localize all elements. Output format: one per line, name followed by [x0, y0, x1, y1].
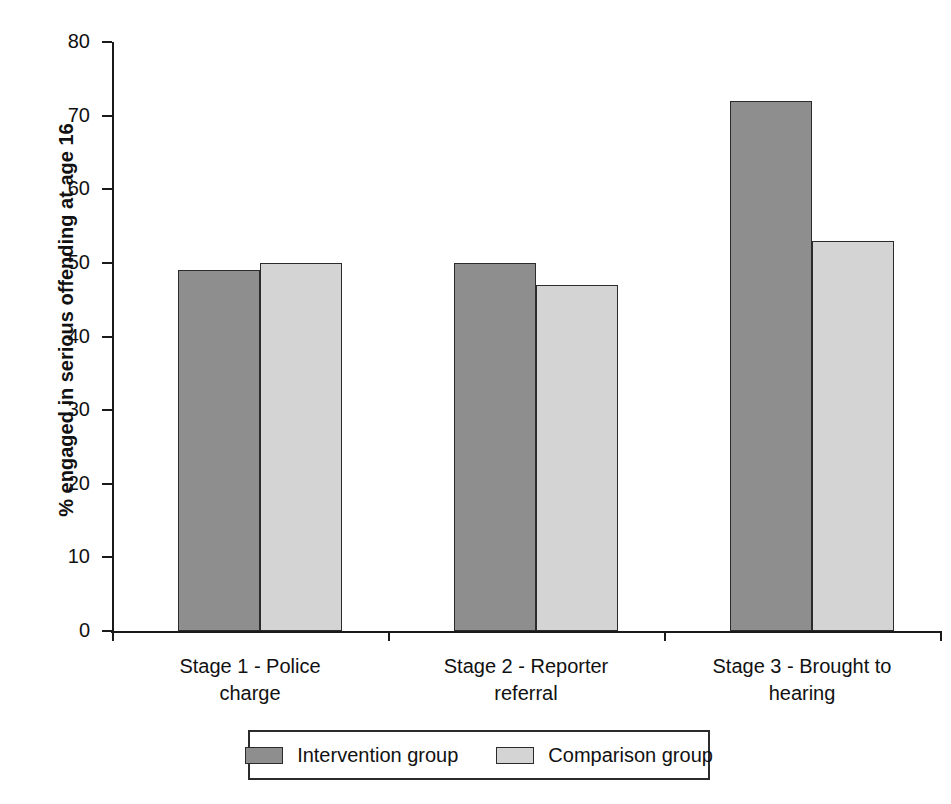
legend-swatch-light: [496, 747, 534, 764]
y-axis-tick: [102, 336, 112, 338]
bar-comparison-2: [536, 285, 618, 631]
category-label-line: Stage 2 - Reporter: [376, 653, 676, 680]
legend-entry-1: Intervention group: [245, 744, 458, 767]
x-axis-line: [111, 631, 940, 633]
y-axis-tick-label: 40: [44, 326, 90, 346]
bar-intervention-1: [178, 270, 260, 631]
y-axis-tick-label: 10: [44, 546, 90, 566]
category-label-line: charge: [100, 680, 400, 707]
y-axis-tick: [102, 115, 112, 117]
legend-label: Comparison group: [548, 744, 713, 767]
y-axis-tick: [102, 630, 112, 632]
category-label-line: hearing: [652, 680, 951, 707]
bar-comparison-3: [812, 241, 894, 631]
category-label-3: Stage 3 - Brought tohearing: [652, 653, 951, 707]
y-axis-tick-label: 50: [44, 252, 90, 272]
legend: Intervention groupComparison group: [248, 730, 710, 780]
y-axis-tick: [102, 556, 112, 558]
category-label-line: referral: [376, 680, 676, 707]
y-axis-tick: [102, 262, 112, 264]
legend-label: Intervention group: [297, 744, 458, 767]
x-axis-tick: [388, 631, 390, 641]
y-axis-tick-label: 30: [44, 399, 90, 419]
legend-swatch-dark: [245, 747, 283, 764]
x-axis-tick: [112, 631, 114, 641]
plot-area: 01020304050607080: [112, 42, 940, 631]
bar-intervention-3: [730, 101, 812, 631]
legend-entry-2: Comparison group: [496, 744, 713, 767]
bar-comparison-1: [260, 263, 342, 631]
category-label-line: Stage 1 - Police: [100, 653, 400, 680]
y-axis-tick: [102, 409, 112, 411]
category-label-1: Stage 1 - Policecharge: [100, 653, 400, 707]
x-axis-tick: [940, 631, 942, 641]
y-axis-tick-label: 20: [44, 473, 90, 493]
y-axis-tick-labels: 01020304050607080: [44, 42, 90, 631]
chart-page: % engaged in serious offending at age 16…: [0, 0, 951, 804]
bar-intervention-2: [454, 263, 536, 631]
y-axis-tick-label: 60: [44, 178, 90, 198]
y-axis-tick-label: 80: [44, 31, 90, 51]
y-axis-tick: [102, 41, 112, 43]
category-label-line: Stage 3 - Brought to: [652, 653, 951, 680]
y-axis-line: [112, 42, 114, 631]
y-axis-tick-label: 70: [44, 105, 90, 125]
y-axis-tick: [102, 188, 112, 190]
y-axis-tick-label: 0: [44, 620, 90, 640]
y-axis-tick: [102, 483, 112, 485]
x-axis-tick: [664, 631, 666, 641]
category-label-2: Stage 2 - Reporterreferral: [376, 653, 676, 707]
